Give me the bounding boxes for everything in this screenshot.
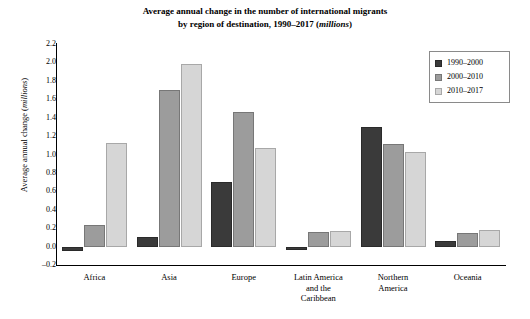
x-tick-label-line: Europe — [206, 272, 281, 283]
bar — [479, 230, 500, 247]
y-axis-title-units: millions — [19, 81, 29, 108]
bar — [84, 225, 105, 246]
legend-item[interactable]: 1990–2000 — [435, 56, 505, 70]
bar — [181, 64, 202, 246]
legend-label: 2010–2017 — [447, 87, 483, 95]
bar — [255, 148, 276, 247]
bar — [330, 231, 351, 247]
x-tick-label: NorthernAmerica — [356, 272, 431, 293]
x-tick-label-line: and the — [281, 283, 356, 294]
legend-swatch-icon — [435, 60, 442, 67]
legend-label: 2000–2010 — [447, 73, 483, 81]
y-tick-label: –0.2 — [20, 261, 56, 269]
bar — [405, 152, 426, 247]
chart-title: Average annual change in the number of i… — [0, 5, 530, 31]
bar — [308, 232, 329, 247]
x-tick-label-line: America — [356, 283, 431, 294]
y-tick-label: 0.0 — [20, 243, 56, 251]
x-tick-label-line: Oceania — [430, 272, 505, 283]
y-axis-title-main: Average annual change ( — [19, 108, 29, 192]
bar — [137, 237, 158, 246]
chart-title-units: millions — [319, 19, 349, 29]
y-axis-title: Average annual change (millions) — [19, 45, 29, 225]
bar — [435, 241, 456, 247]
bar — [383, 144, 404, 246]
chart-container: Average annual change in the number of i… — [0, 0, 530, 319]
chart-title-line-2-main: by region of destination, 1990–2017 ( — [178, 19, 319, 29]
chart-legend: 1990–20002000–20102010–2017 — [429, 51, 510, 103]
bar — [159, 90, 180, 247]
y-axis-title-end: ) — [19, 78, 29, 81]
x-tick-label-line: Latin America — [281, 272, 356, 283]
y-axis-tick-labels: 2.22.01.81.61.41.21.00.80.60.40.20.0–0.2 — [10, 0, 56, 319]
chart-title-line-2-end: ) — [349, 19, 352, 29]
x-tick-label-line: Asia — [132, 272, 207, 283]
legend-swatch-icon — [435, 88, 442, 95]
y-tick-label: 0.2 — [20, 224, 56, 232]
x-tick-label-line: Caribbean — [281, 293, 356, 304]
x-tick-label: Europe — [206, 272, 281, 283]
chart-title-line-2: by region of destination, 1990–2017 (mil… — [0, 18, 530, 31]
bar — [106, 143, 127, 247]
legend-label: 1990–2000 — [447, 59, 483, 67]
x-tick-label: Oceania — [430, 272, 505, 283]
chart-title-line-1: Average annual change in the number of i… — [0, 5, 530, 18]
legend-item[interactable]: 2000–2010 — [435, 70, 505, 84]
x-tick-label: Africa — [57, 272, 132, 283]
bar — [286, 247, 307, 251]
bar — [211, 182, 232, 246]
bar — [361, 127, 382, 247]
x-tick-label: Latin Americaand theCaribbean — [281, 272, 356, 304]
x-tick-label: Asia — [132, 272, 207, 283]
legend-swatch-icon — [435, 74, 442, 81]
legend-item[interactable]: 2010–2017 — [435, 84, 505, 98]
bar — [62, 247, 83, 252]
x-axis-line — [56, 265, 506, 266]
x-tick-label-line: Africa — [57, 272, 132, 283]
x-tick-label-line: Northern — [356, 272, 431, 283]
bar — [233, 112, 254, 246]
bar — [457, 233, 478, 247]
